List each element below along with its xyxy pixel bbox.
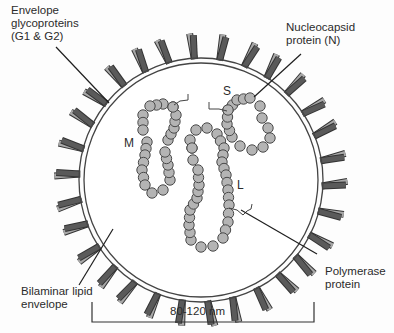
label-bilaminar-lipid-envelope: Bilaminar lipid envelope [21,285,93,311]
label-envelope-glycoproteins: Envelope glycoproteins (G1 & G2) [11,4,79,43]
scale-bar-label: 80-120 nm [170,305,225,317]
label-polymerase-protein: Polymerase protein [325,265,386,291]
segment-label-s: S [223,84,231,98]
segment-label-l: L [237,178,244,192]
segment-label-m: M [124,136,134,150]
virion-diagram: Envelope glycoproteins (G1 & G2) Nucleoc… [0,0,394,333]
label-nucleocapsid-protein: Nucleocapsid protein (N) [286,21,355,47]
